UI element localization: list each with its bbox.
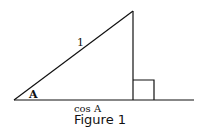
hypotenuse-line — [14, 11, 133, 100]
angle-label: A — [28, 88, 38, 101]
right-angle-marker — [133, 80, 154, 100]
hypotenuse-label: 1 — [77, 36, 84, 49]
figure-caption: Figure 1 — [0, 112, 200, 127]
